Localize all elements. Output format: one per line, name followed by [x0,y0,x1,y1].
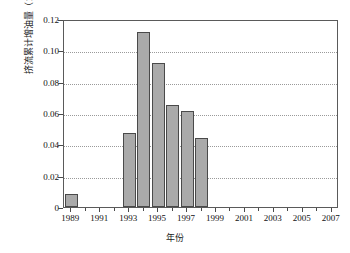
y-axis-tick-label: 0.08 [25,78,59,88]
x-axis-minor-tick-mark [85,208,86,211]
x-axis-tick-mark [273,208,274,212]
x-axis-minor-tick-mark [114,208,115,211]
x-axis-tick-mark [128,208,129,212]
x-axis-minor-tick-mark [172,208,173,211]
x-axis-tick-mark [157,208,158,212]
x-axis-title: 年份 [0,231,350,244]
x-axis-minor-tick-mark [143,208,144,211]
x-axis-tick-label: 2007 [311,213,350,223]
bar [65,194,78,207]
y-axis-tick-label: 0 [25,203,59,213]
bar [181,111,194,207]
x-axis-minor-tick-mark [258,208,259,211]
bar [123,133,136,207]
x-axis-tick-mark [70,208,71,212]
x-axis-tick-mark [302,208,303,212]
y-axis-tick-mark [58,208,63,209]
plot-area [63,20,338,208]
x-axis-minor-tick-mark [316,208,317,211]
x-axis-tick-mark [186,208,187,212]
x-axis-minor-tick-mark [201,208,202,211]
y-axis-tick-label: 0.04 [25,140,59,150]
y-axis-tick-label: 0.10 [25,46,59,56]
x-axis-tick-mark [331,208,332,212]
bar [195,138,208,207]
bar [152,63,165,207]
bar [137,32,150,207]
bar [166,105,179,207]
x-axis-minor-tick-mark [287,208,288,211]
x-axis-tick-mark [99,208,100,212]
x-axis-tick-mark [244,208,245,212]
y-axis-tick-label: 0.02 [25,172,59,182]
y-axis-tick-label: 0.06 [25,109,59,119]
chart-figure: 挤流累计增油量（10⁴t） 00.020.040.060.080.100.12 … [0,0,350,253]
x-axis-minor-tick-mark [229,208,230,211]
x-axis-tick-mark [215,208,216,212]
bar-group [64,21,337,207]
y-axis-tick-label: 0.12 [25,15,59,25]
